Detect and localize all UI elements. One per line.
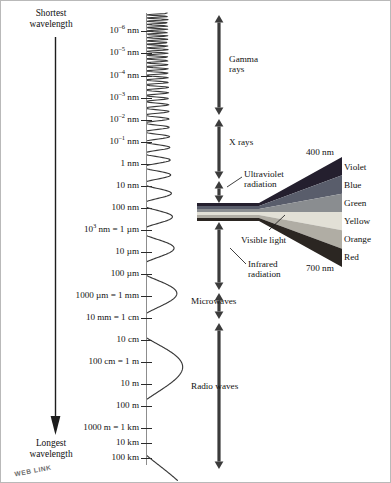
color-name-orange: Orange [344,235,371,244]
scale-label: 10 nm [7,181,139,190]
band-arrow-radio-waves [214,323,224,469]
scale-label-row: 1000 µm = 1 mm [1,291,139,301]
scale-label: 10–2 nm [7,115,139,124]
scale-label-row: 10–4 nm [1,71,139,81]
electromagnetic-spectrum-figure: Shortest wavelength Longest wavelength 1… [0,0,391,483]
band-label-gamma-rays: Gammarays [229,54,258,75]
color-name-violet: Violet [344,163,366,172]
scale-label: 103 nm = 1 µm [7,225,139,234]
scale-label-row: 10 mm = 1 cm [1,313,139,323]
scale-label-row: 100 µm [1,269,139,279]
scale-label: 1 nm [7,159,139,168]
scale-label: 1000 µm = 1 mm [7,291,139,300]
scale-label: 100 m [7,401,139,410]
scale-label-row: 100 nm [1,203,139,213]
shortest-wavelength-line1: Shortest [9,8,93,19]
scale-label-row: 10 m [1,379,139,389]
web-link-text: WEB LINK [7,462,59,479]
band-label-line1: Radio waves [191,381,238,391]
scale-label-row: 10–6 nm [1,26,139,36]
scale-label-row: 10 cm [1,335,139,345]
scale-label: 1000 m = 1 km [7,423,139,432]
web-link-badge: WEB LINK [7,463,59,483]
visible-light-wedge [197,151,342,273]
scale-label: 10 cm [7,335,139,344]
scale-label: 100 km [7,453,139,462]
band-label-x-rays: X rays [229,137,253,147]
scale-label: 10–6 nm [7,26,139,35]
scale-label-row: 10–5 nm [1,48,139,58]
scale-label-row: 103 nm = 1 µm [1,225,139,235]
scale-label-row: 10–2 nm [1,115,139,125]
band-label-microwaves: Microwaves [191,296,236,306]
scale-label: 10 mm = 1 cm [7,313,139,322]
wavelength-400nm-label: 400 nm [306,147,334,157]
scale-label: 100 µm [7,269,139,278]
scale-label-row: 10 km [1,438,139,448]
band-label-radio-waves: Radio waves [191,381,238,391]
band-label-line1: Gamma [229,54,258,64]
scale-label: 100 cm = 1 m [7,357,139,366]
scale-label-row: 10 nm [1,181,139,191]
band-label-line2: rays [229,64,258,74]
wavelength-700nm-label: 700 nm [306,263,334,273]
band-label-line1: Microwaves [191,296,236,306]
scale-label-row: 1000 m = 1 km [1,423,139,433]
band-arrow-gamma-rays [214,15,224,115]
scale-label: 10 km [7,438,139,447]
scale-label-row: 10–1 nm [1,137,139,147]
color-name-green: Green [344,199,366,208]
scale-label: 10 µm [7,247,139,256]
band-label-line1: X rays [229,137,253,147]
scale-label-row: 10–3 nm [1,93,139,103]
scale-label-row: 100 km [1,453,139,463]
scale-label: 10–3 nm [7,93,139,102]
visible-light-label: Visible light [241,235,286,245]
color-name-yellow: Yellow [344,217,370,226]
color-name-red: Red [344,253,359,262]
scale-label-row: 100 m [1,401,139,411]
scale-label: 100 nm [7,203,139,212]
scale-label: 10–4 nm [7,71,139,80]
scale-label-row: 100 cm = 1 m [1,357,139,367]
scale-label-row: 10 µm [1,247,139,257]
scale-label-row: 1 nm [1,159,139,169]
scale-label: 10 m [7,379,139,388]
color-name-blue: Blue [344,181,361,190]
scale-label: 10–5 nm [7,48,139,57]
scale-label: 10–1 nm [7,137,139,146]
